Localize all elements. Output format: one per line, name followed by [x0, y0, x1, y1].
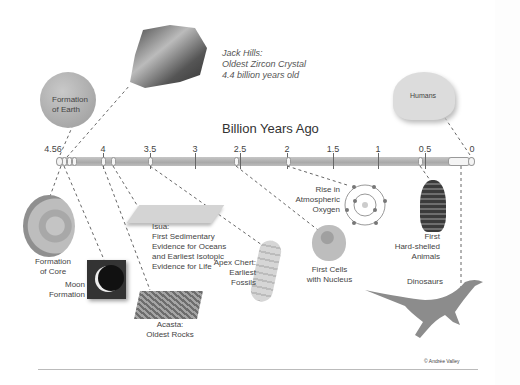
dinosaurs-label: Dinosaurs — [407, 277, 443, 287]
event-marker — [72, 157, 77, 166]
copyright-credit: © Andrée Valley — [424, 356, 460, 366]
trilobite-image — [420, 180, 446, 232]
zircon-crystal-image — [125, 20, 210, 90]
acasta-label: Acasta: Oldest Rocks — [140, 320, 200, 340]
footer-divider — [38, 369, 478, 370]
tick-mark — [425, 153, 426, 169]
tick-mark — [378, 153, 379, 169]
event-marker — [418, 157, 423, 166]
tick-mark — [240, 153, 241, 169]
oxygen-label: Rise in Atmospheric Oxygen — [290, 185, 340, 215]
first-cell-image — [312, 225, 346, 261]
event-marker — [101, 157, 106, 166]
acasta-rock-image — [134, 291, 203, 319]
moon-formation-label: Moon Formation — [38, 280, 85, 300]
moon-image — [87, 260, 126, 299]
event-marker — [234, 157, 239, 166]
apex-chert-label: Apex Chert: Earliest Fossils — [200, 258, 256, 288]
event-marker — [448, 157, 470, 166]
event-marker — [111, 157, 116, 166]
tick-mark — [333, 153, 334, 169]
axis-title: Billion Years Ago — [222, 121, 319, 136]
first-cells-label: First Cells with Nucleus — [302, 265, 357, 285]
tick-label: 4.56 — [44, 144, 62, 154]
formation-of-core-label: Formation of Core — [28, 257, 78, 277]
event-marker — [468, 157, 475, 166]
timeline-bar — [58, 157, 470, 166]
core-image — [23, 195, 75, 257]
event-marker — [286, 157, 291, 166]
event-marker — [148, 157, 153, 166]
formation-of-earth-label: Formation of Earth — [52, 95, 92, 115]
hard-shelled-label: First Hard-shelled Animals — [390, 232, 440, 262]
oxygen-atom-icon — [342, 182, 388, 228]
tick-mark — [195, 153, 196, 169]
jack-hills-label: Jack Hills: Oldest Zircon Crystal 4.4 bi… — [222, 48, 306, 81]
isua-slab-image — [127, 205, 225, 223]
humans-label: Humans — [410, 91, 436, 101]
tick-label: 0 — [469, 144, 474, 154]
